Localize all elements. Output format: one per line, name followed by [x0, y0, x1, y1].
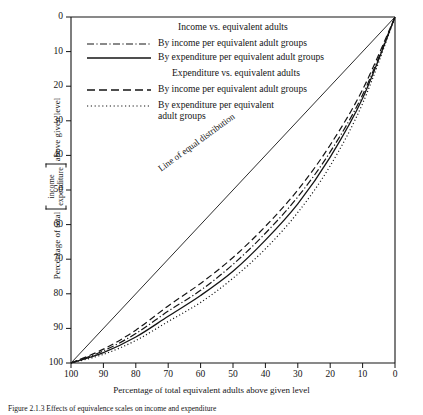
figure-caption: Figure 2.1.3 Effects of equivalence scal… [8, 405, 216, 413]
y-tick-label-10: 10 [23, 47, 63, 57]
legend-swatch-dashed [87, 88, 151, 92]
legend-group1-title: Income vs. equivalent adults [178, 22, 288, 32]
bracket-left [46, 206, 67, 210]
y-axis-title: Percentage of total income expenditure a… [46, 89, 67, 289]
y-axis-ticks [66, 17, 71, 363]
y-axis-title-prefix: Percentage of total [51, 212, 61, 279]
bracket-right [46, 163, 67, 167]
legend-swatch-dotted [87, 104, 151, 108]
legend-item-4-label: By expenditure per equivalent [158, 100, 274, 110]
y-tick-label-80: 80 [23, 289, 63, 299]
bracket-content: income expenditure [47, 167, 64, 206]
bracket-line-expenditure: expenditure [56, 167, 65, 206]
x-axis-title: Percentage of total equivalent adults ab… [0, 386, 423, 395]
figure-container: 0102030405060708090100 10090807060504030… [0, 0, 423, 415]
y-axis-title-suffix: above given level [51, 98, 61, 161]
legend-swatch-solid [87, 56, 151, 60]
legend-item-2-label: By expenditure per equivalent adult grou… [158, 52, 324, 62]
legend-item-3-label: By income per equivalent adult groups [158, 84, 307, 94]
y-tick-label-0: 0 [23, 12, 63, 22]
y-tick-label-100: 100 [23, 358, 63, 368]
x-tick-label-0: 0 [375, 370, 415, 380]
y-tick-label-90: 90 [23, 323, 63, 333]
legend-item-4-label-line2: adult groups [158, 111, 206, 121]
y-axis-title-bracket: income expenditure [46, 163, 67, 210]
legend-group2-title: Expenditure vs. equivalent adults [172, 68, 300, 78]
legend-swatch-dash-dot [87, 42, 151, 46]
legend-item-1-label: By income per equivalent adult groups [158, 38, 307, 48]
x-axis-ticks [71, 363, 395, 368]
